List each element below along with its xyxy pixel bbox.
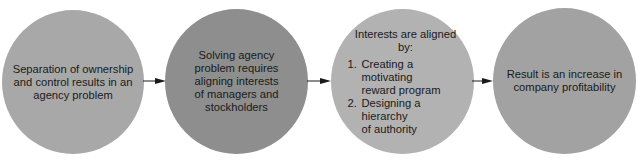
text-line: problem requires: [195, 62, 279, 75]
text-line: of authority: [362, 123, 464, 136]
text-line: of managers and: [195, 88, 279, 101]
arrow-1: [143, 77, 167, 85]
arrow-right-icon: [143, 77, 167, 85]
text-line: agency problem: [13, 89, 134, 102]
list-number: 1.: [348, 58, 362, 97]
text-line: aligning interests: [195, 75, 279, 88]
text-line: Separation of ownership: [13, 63, 134, 76]
node-text: Separation of ownership and control resu…: [13, 63, 134, 102]
node-solving-agency-problem: Solving agency problem requires aligning…: [165, 9, 308, 154]
text-line: and control results in an: [13, 76, 134, 89]
list-item-2: 2. Designing a hierarchy of authority: [348, 97, 464, 136]
text-line: company profitability: [507, 81, 623, 94]
arrow-3: [472, 77, 494, 85]
node-text: Solving agency problem requires aligning…: [195, 49, 279, 114]
text-line: reward program: [362, 84, 464, 97]
text-line: stockholders: [195, 101, 279, 114]
list-item-1: 1. Creating a motivating reward program: [348, 58, 464, 97]
text-line: Creating a motivating: [362, 58, 464, 84]
arrow-right-icon: [307, 77, 332, 85]
arrow-2: [307, 77, 332, 85]
node-heading: Interests are aligned by:: [348, 28, 464, 54]
node-separation-of-ownership: Separation of ownership and control resu…: [2, 10, 144, 154]
text-line: Designing a hierarchy: [362, 97, 464, 123]
arrow-right-icon: [472, 77, 494, 85]
text-line: Result is an increase in: [507, 68, 623, 81]
text-line: Solving agency: [195, 49, 279, 62]
node-text: Result is an increase in company profita…: [507, 68, 623, 94]
list-number: 2.: [348, 97, 362, 136]
node-text: Interests are aligned by: 1. Creating a …: [348, 28, 464, 136]
node-result-profitability: Result is an increase in company profita…: [493, 8, 636, 154]
node-interests-aligned: Interests are aligned by: 1. Creating a …: [331, 9, 474, 154]
